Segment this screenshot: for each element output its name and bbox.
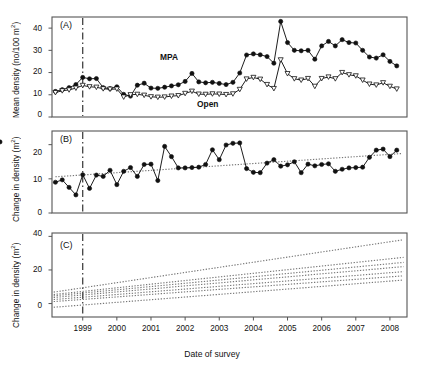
panel-c-plot	[0, 0, 424, 367]
panel-a-open-label: Open	[197, 99, 218, 109]
panel-b-tag: (B)	[60, 134, 72, 144]
panel-a-mpa-label: MPA	[160, 52, 178, 62]
panel-c-ytick-20: 20	[26, 265, 42, 274]
panel-c-tag: (C)	[60, 240, 73, 250]
x-axis-tick-2004: 2004	[237, 324, 269, 333]
panel-a-ytick-20: 20	[26, 67, 42, 76]
panel-a-ylabel: Mean density (no/100 m2)	[12, 14, 21, 118]
panel-a-plot	[0, 0, 424, 367]
panel-b-ylabel: Change in density (m2)	[12, 130, 21, 222]
panel-b-ytick-10: 10	[26, 175, 42, 184]
x-axis-label: Date of survey	[0, 349, 424, 359]
panel-a-ytick-30: 30	[26, 46, 42, 55]
panel-c-ytick-0: 0	[26, 301, 42, 310]
panel-b-ytick-20: 20	[26, 148, 42, 157]
panel-c-ylabel: Change in density (m2)	[12, 236, 21, 328]
panel-a-ytick-0: 0	[26, 110, 42, 119]
x-axis-tick-2002: 2002	[169, 324, 201, 333]
panel-a-tag: (A)	[60, 20, 72, 30]
x-axis-tick-2001: 2001	[135, 324, 167, 333]
x-axis-tick-2007: 2007	[340, 324, 372, 333]
x-axis-tick-2005: 2005	[272, 324, 304, 333]
x-axis-tick-2000: 2000	[101, 324, 133, 333]
x-axis-tick-2006: 2006	[306, 324, 338, 333]
x-axis-tick-1999: 1999	[67, 324, 99, 333]
x-axis-tick-2003: 2003	[203, 324, 235, 333]
panel-b-ytick-0: 0	[26, 208, 42, 217]
panel-c-ytick-40: 40	[26, 229, 42, 238]
panel-a-ytick-40: 40	[26, 24, 42, 33]
panel-a-ytick-10: 10	[26, 89, 42, 98]
x-axis-tick-2008: 2008	[374, 324, 406, 333]
figure-root: Mean density (no/100 m2) (A) 40 30 20 10…	[0, 0, 424, 367]
panel-b-plot	[0, 0, 424, 367]
